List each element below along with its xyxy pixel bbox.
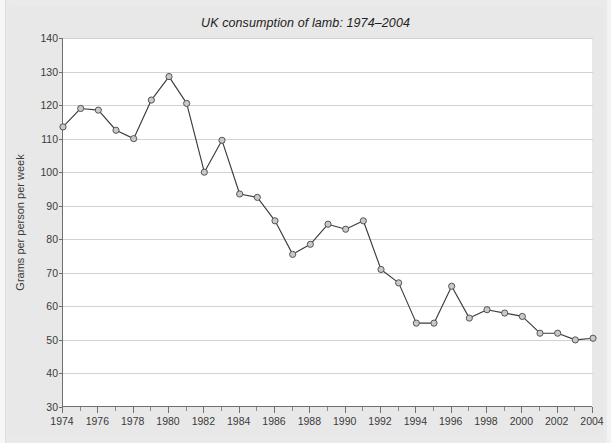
plot-area	[62, 38, 592, 407]
x-tick-mark-minor	[80, 407, 81, 411]
x-tick-mark	[345, 407, 346, 413]
y-axis-title: Grams per person per week	[14, 38, 30, 407]
x-tick-mark	[486, 407, 487, 413]
x-tick-mark	[380, 407, 381, 413]
figure-container: UK consumption of lamb: 1974–2004 Grams …	[0, 0, 611, 443]
x-tick-mark-minor	[433, 407, 434, 411]
data-point	[60, 124, 66, 130]
y-tick-label: 120	[18, 99, 58, 111]
x-tick-mark	[97, 407, 98, 413]
data-point	[272, 218, 278, 224]
data-point	[502, 310, 508, 316]
x-tick-mark-minor	[292, 407, 293, 411]
x-tick-mark	[451, 407, 452, 413]
data-point	[484, 307, 490, 313]
data-point	[201, 169, 207, 175]
data-point	[449, 283, 455, 289]
x-tick-mark-minor	[362, 407, 363, 411]
y-tick-label: 140	[18, 32, 58, 44]
data-point	[184, 100, 190, 106]
y-tick-label: 130	[18, 66, 58, 78]
x-tick-mark-minor	[468, 407, 469, 411]
data-point	[555, 330, 561, 336]
x-tick-label: 2004	[568, 415, 611, 427]
x-tick-mark-minor	[256, 407, 257, 411]
data-point	[431, 320, 437, 326]
data-point	[590, 335, 596, 341]
data-point	[360, 218, 366, 224]
data-point	[254, 194, 260, 200]
x-tick-mark	[309, 407, 310, 413]
data-point	[95, 107, 101, 113]
x-tick-mark	[521, 407, 522, 413]
chart-title: UK consumption of lamb: 1974–2004	[8, 16, 603, 30]
data-point	[237, 191, 243, 197]
series-markers	[60, 73, 596, 343]
x-tick-mark	[203, 407, 204, 413]
x-tick-mark	[592, 407, 593, 413]
data-point	[325, 221, 331, 227]
data-point	[219, 137, 225, 143]
x-tick-mark	[274, 407, 275, 413]
x-tick-mark	[557, 407, 558, 413]
y-tick-label: 40	[18, 367, 58, 379]
y-tick-label: 100	[18, 166, 58, 178]
x-tick-mark	[239, 407, 240, 413]
x-tick-mark-minor	[115, 407, 116, 411]
data-point	[572, 337, 578, 343]
x-tick-mark	[62, 407, 63, 413]
data-point	[148, 97, 154, 103]
series-path	[63, 77, 593, 340]
data-point	[537, 330, 543, 336]
y-tick-label: 80	[18, 233, 58, 245]
x-tick-mark-minor	[221, 407, 222, 411]
data-point	[519, 313, 525, 319]
x-tick-mark	[168, 407, 169, 413]
data-point	[78, 105, 84, 111]
data-point	[378, 266, 384, 272]
x-tick-mark-minor	[186, 407, 187, 411]
plot-frame: 30405060708090100110120130140 1974197619…	[62, 38, 592, 407]
x-tick-mark-minor	[539, 407, 540, 411]
data-point	[466, 315, 472, 321]
series-line-chart	[63, 38, 593, 407]
y-tick-label: 50	[18, 334, 58, 346]
data-point	[307, 241, 313, 247]
data-point	[166, 73, 172, 79]
data-point	[413, 320, 419, 326]
chart-card: UK consumption of lamb: 1974–2004 Grams …	[8, 6, 603, 437]
x-tick-mark	[133, 407, 134, 413]
x-tick-mark-minor	[574, 407, 575, 411]
y-tick-label: 70	[18, 267, 58, 279]
y-tick-label: 90	[18, 200, 58, 212]
y-tick-label: 110	[18, 133, 58, 145]
data-point	[343, 226, 349, 232]
data-point	[113, 127, 119, 133]
x-tick-mark-minor	[504, 407, 505, 411]
y-tick-label: 60	[18, 300, 58, 312]
data-point	[290, 251, 296, 257]
data-point	[131, 136, 137, 142]
x-tick-mark-minor	[327, 407, 328, 411]
data-point	[396, 280, 402, 286]
x-tick-mark	[415, 407, 416, 413]
x-tick-mark-minor	[150, 407, 151, 411]
x-tick-mark-minor	[398, 407, 399, 411]
y-tick-label: 30	[18, 401, 58, 413]
